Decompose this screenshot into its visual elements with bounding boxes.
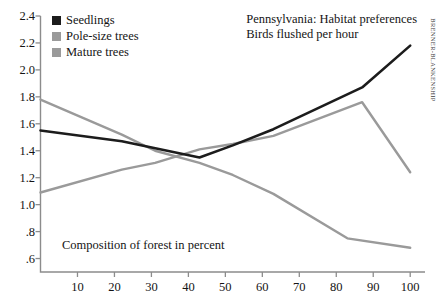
chart-title-block: Pennsylvania: Habitat preferences Birds … bbox=[246, 12, 417, 42]
x-tick-label: 50 bbox=[219, 281, 232, 293]
x-tick-label: 10 bbox=[71, 281, 84, 293]
x-tick-label: 60 bbox=[256, 281, 269, 293]
x-tick-label: 30 bbox=[145, 281, 158, 293]
legend-label-seedlings: Seedlings bbox=[66, 14, 115, 27]
legend-label-pole-size-trees: Pole-size trees bbox=[66, 30, 139, 43]
legend-swatch-pole-size-trees bbox=[52, 32, 61, 41]
x-tick-label: 20 bbox=[108, 281, 121, 293]
x-tick-label: 90 bbox=[367, 281, 380, 293]
chart-legend: Seedlings Pole-size trees Mature trees bbox=[52, 13, 139, 60]
x-tick-label: 40 bbox=[182, 281, 195, 293]
legend-item-mature-trees: Mature trees bbox=[52, 45, 139, 60]
x-tick-label: 70 bbox=[293, 281, 306, 293]
chart-caption: Composition of forest in percent bbox=[62, 238, 224, 252]
chart-title: Pennsylvania: Habitat preferences bbox=[246, 12, 417, 27]
legend-swatch-seedlings bbox=[52, 16, 61, 25]
x-tick-label: 100 bbox=[401, 281, 420, 293]
chart-credit: BRENNER-BLANKENSHIP bbox=[427, 8, 438, 112]
chart-subtitle: Birds flushed per hour bbox=[246, 27, 417, 42]
x-tick-label: 80 bbox=[330, 281, 343, 293]
chart-credit-text: BRENNER-BLANKENSHIP bbox=[429, 18, 436, 101]
legend-item-seedlings: Seedlings bbox=[52, 13, 139, 28]
chart-figure: .6.81.01.21.41.61.82.02.22.4 10203040506… bbox=[0, 0, 439, 305]
legend-item-pole-size-trees: Pole-size trees bbox=[52, 29, 139, 44]
legend-swatch-mature-trees bbox=[52, 48, 61, 57]
legend-label-mature-trees: Mature trees bbox=[66, 46, 129, 59]
